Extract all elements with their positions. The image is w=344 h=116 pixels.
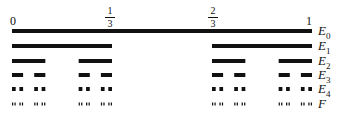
fraction-numerator: 1 <box>108 5 113 16</box>
cantor-segment <box>219 87 223 91</box>
cantor-segment <box>308 87 312 91</box>
cantor-segment <box>286 103 287 106</box>
cantor-segment <box>42 103 43 106</box>
tick-one: 1 <box>306 15 312 27</box>
cantor-segment <box>212 103 213 106</box>
tick-two-thirds: 2 3 <box>208 6 218 29</box>
cantor-segment <box>244 103 245 106</box>
cantor-segment <box>234 87 238 91</box>
cantor-segment <box>79 73 90 77</box>
cantor-segment <box>308 103 309 106</box>
cantor-segment <box>37 103 38 106</box>
cantor-segment <box>34 73 45 77</box>
cantor-segment <box>212 59 245 63</box>
fraction-denominator: 3 <box>108 18 113 29</box>
cantor-segment <box>44 103 45 106</box>
cantor-segment <box>12 87 16 91</box>
cantor-segment <box>101 73 112 77</box>
cantor-diagram <box>0 0 344 116</box>
cantor-segment <box>303 103 304 106</box>
cantor-segment <box>222 103 223 106</box>
fraction-denominator: 3 <box>211 18 216 29</box>
cantor-segment <box>212 87 216 91</box>
cantor-segment <box>279 87 283 91</box>
cantor-segment <box>279 103 280 106</box>
cantor-segment <box>237 103 238 106</box>
cantor-segment <box>42 87 46 91</box>
cantor-segment <box>12 59 45 63</box>
cantor-segment <box>79 103 80 106</box>
cantor-segment <box>12 29 312 33</box>
fraction-numerator: 2 <box>211 5 216 16</box>
cantor-segment <box>89 103 90 106</box>
cantor-segment <box>242 87 246 91</box>
cantor-segment <box>19 103 20 106</box>
cantor-segment <box>108 103 109 106</box>
level-label-5: F <box>318 97 326 110</box>
cantor-segment <box>279 59 312 63</box>
cantor-segment <box>79 59 112 63</box>
cantor-segment <box>301 73 312 77</box>
cantor-segment <box>34 87 38 91</box>
cantor-segment <box>108 87 112 91</box>
cantor-segment <box>279 73 290 77</box>
cantor-segment <box>301 103 302 106</box>
tick-zero: 0 <box>10 15 16 27</box>
cantor-segment <box>14 103 15 106</box>
cantor-segment <box>214 103 215 106</box>
cantor-segment <box>86 103 87 106</box>
cantor-segment <box>81 103 82 106</box>
cantor-segment <box>212 44 312 48</box>
cantor-segment <box>234 73 245 77</box>
cantor-segment <box>286 87 290 91</box>
cantor-segment <box>12 44 112 48</box>
cantor-segment <box>79 87 83 91</box>
cantor-segment <box>34 103 35 106</box>
cantor-segment <box>12 73 23 77</box>
cantor-segment <box>86 87 90 91</box>
cantor-segment <box>101 87 105 91</box>
cantor-segment <box>289 103 290 106</box>
tick-one-third: 1 3 <box>105 6 115 29</box>
cantor-segment <box>301 87 305 91</box>
cantor-segment <box>22 103 23 106</box>
cantor-segment <box>103 103 104 106</box>
cantor-segment <box>101 103 102 106</box>
cantor-segment <box>219 103 220 106</box>
cantor-segment <box>12 103 13 106</box>
cantor-segment <box>212 73 223 77</box>
cantor-segment <box>281 103 282 106</box>
cantor-segment <box>111 103 112 106</box>
cantor-segment <box>19 87 23 91</box>
cantor-segment <box>242 103 243 106</box>
cantor-segment <box>234 103 235 106</box>
cantor-segment <box>311 103 312 106</box>
